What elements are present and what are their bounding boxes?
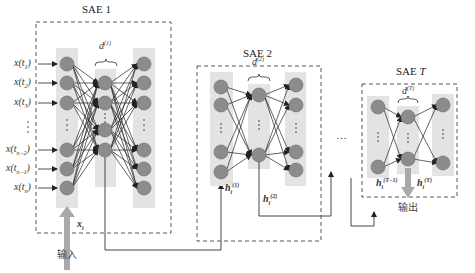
sae2-output-node xyxy=(289,163,303,177)
stack-ellipsis: … xyxy=(336,130,347,141)
h1-label: hi(1) xyxy=(225,183,239,193)
saeT-title: SAE T xyxy=(396,66,426,77)
sae2-hidden-dim: d(2) xyxy=(252,57,264,67)
saeT-input-node xyxy=(371,100,385,114)
sae1-input-node xyxy=(60,57,74,71)
sae2-input-node xyxy=(214,98,228,112)
sae2-input-node xyxy=(214,80,228,94)
saeT-output-node xyxy=(436,98,450,112)
sae1-hidden-dim: d(1) xyxy=(99,41,111,51)
input-label-t2: x(t2) xyxy=(14,77,31,87)
sae1-output-node xyxy=(137,57,151,71)
input-vector-label: xi xyxy=(77,219,84,229)
input-label-t3: x(t3) xyxy=(14,97,31,107)
sae1-title: SAE 1 xyxy=(82,4,111,15)
sae1-output-node xyxy=(137,181,151,195)
sae1-input-node xyxy=(60,181,74,195)
input-arrow-icon xyxy=(59,206,75,270)
sae1-hidden-node xyxy=(98,123,112,137)
input-label-tn: x(tn) xyxy=(14,182,31,192)
sae2-output-node xyxy=(289,78,303,92)
saeT-brace-icon xyxy=(398,96,418,103)
sae1-input-node xyxy=(60,143,74,157)
sae2-output-node xyxy=(289,145,303,159)
sae1-brace-icon xyxy=(95,59,117,66)
sae1-input-node xyxy=(60,162,74,176)
sae2-hidden-node xyxy=(252,148,266,162)
sae1-to-sae2-connector xyxy=(105,157,221,250)
sae1-output-node xyxy=(137,162,151,176)
hT-label: hi(T) xyxy=(417,178,432,188)
sae2-hidden-node xyxy=(252,88,266,102)
input-label-tn-1: x(tn−1) xyxy=(6,163,30,173)
sae2-output-node xyxy=(289,98,303,112)
sae1-output-node xyxy=(137,143,151,157)
sae1-input-node xyxy=(60,96,74,110)
prev-to-saeT-connector xyxy=(351,178,374,226)
sae1-hidden-node xyxy=(98,76,112,90)
input-caption: 输入 xyxy=(57,250,77,260)
sae1-block xyxy=(27,22,171,270)
saeT-input-node xyxy=(371,160,385,174)
sae-stack-diagram xyxy=(0,0,475,273)
h2-label: hi(2) xyxy=(263,194,277,204)
sae1-input-node xyxy=(60,76,74,90)
input-label-t1: x(t1) xyxy=(14,58,31,68)
sae2-brace-icon xyxy=(248,74,270,81)
sae1-output-node xyxy=(137,76,151,90)
input-label-tn-2: x(tn−2) xyxy=(6,144,30,154)
saeT-hidden-dim: d(T) xyxy=(402,86,414,96)
sae2-input-node xyxy=(214,145,228,159)
output-caption: 输出 xyxy=(398,203,418,213)
sae1-hidden-node xyxy=(98,143,112,157)
saeT-output-node xyxy=(436,156,450,170)
sae1-output-node xyxy=(137,96,151,110)
sae2-input-node xyxy=(214,165,228,179)
saeT-hidden-node xyxy=(401,110,415,124)
hT-1-label: hi(T−1) xyxy=(376,178,398,188)
sae1-hidden-node xyxy=(98,96,112,110)
saeT-hidden-node xyxy=(401,152,415,166)
